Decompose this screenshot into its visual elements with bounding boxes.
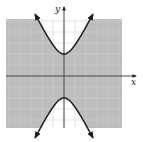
x-axis-label: x bbox=[131, 77, 136, 87]
y-axis-label: y bbox=[54, 4, 61, 14]
hyperbola-graph: x y bbox=[0, 0, 143, 142]
